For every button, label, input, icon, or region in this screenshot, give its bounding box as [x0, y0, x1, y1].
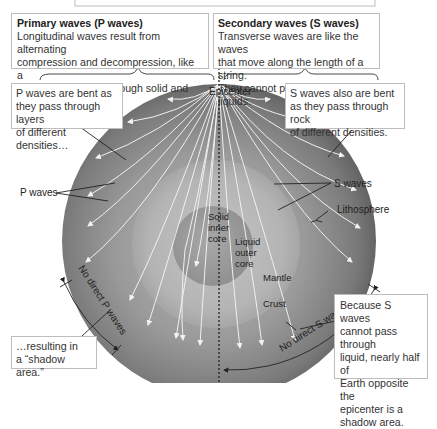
s-bent-line-1: S waves also are bent [290, 87, 400, 100]
inner-core-label: Solid inner core [208, 211, 229, 244]
s-shadow-line-4: Earth opposite the [340, 377, 422, 403]
outer-core-label: Liquid outer core [235, 236, 260, 269]
p-waves-title: Primary waves (P waves) [17, 17, 203, 30]
lithosphere-label: Lithosphere [337, 204, 389, 216]
inner-core-line-2: inner [208, 222, 229, 233]
p-bent-line-1: P waves are bent as [16, 87, 118, 100]
p-waves-label: P waves [20, 187, 58, 199]
p-shadow-line-2: a “shadow area.” [16, 353, 92, 379]
epicenter-label: Epicenter [209, 86, 251, 98]
s-bent-callout: S waves also are bent as they pass throu… [285, 83, 405, 129]
crust-label: Crust [263, 298, 286, 310]
outer-core-line-3: core [235, 258, 260, 269]
s-shadow-line-6: shadow area. [340, 416, 422, 429]
p-bent-line-2: they pass through layers [16, 100, 118, 126]
s-waves-label: S waves [334, 178, 372, 190]
p-waves-line-2: compression and decompression, like a [17, 56, 203, 82]
top-box [75, 0, 375, 6]
outer-core-line-1: Liquid [235, 236, 260, 247]
s-bent-line-3: of different densities. [290, 126, 400, 139]
inner-core-line-3: core [208, 233, 229, 244]
mantle-label: Mantle [263, 272, 292, 284]
p-bent-line-3: of different densities… [16, 126, 118, 152]
p-shadow-callout: …resulting in a “shadow area.” [11, 336, 97, 369]
s-shadow-line-5: epicenter is a [340, 403, 422, 416]
outer-core-line-2: outer [235, 247, 260, 258]
s-waves-line-1: Transverse waves are like the waves [218, 30, 375, 56]
p-waves-line-1: Longitudinal waves result from alternati… [17, 30, 203, 56]
s-shadow-callout: Because S waves cannot pass through liqu… [334, 294, 428, 379]
p-shadow-line-1: …resulting in [16, 340, 92, 353]
s-waves-info-box: Secondary waves (S waves) Transverse wav… [213, 13, 380, 69]
s-shadow-line-1: Because S waves [340, 299, 422, 325]
inner-core-line-1: Solid [208, 211, 229, 222]
s-waves-title: Secondary waves (S waves) [218, 17, 375, 30]
p-bent-callout: P waves are bent as they pass through la… [11, 83, 123, 129]
p-waves-info-box: Primary waves (P waves) Longitudinal wav… [11, 13, 209, 69]
s-waves-line-2: that move along the length of a string. [218, 56, 375, 82]
s-shadow-line-2: cannot pass through [340, 325, 422, 351]
s-shadow-line-3: liquid, nearly half of [340, 351, 422, 377]
s-bent-line-2: as they pass through rock [290, 100, 400, 126]
